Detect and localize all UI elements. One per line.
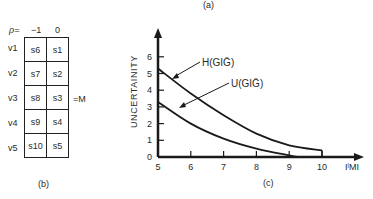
caption-c: (c) xyxy=(263,178,274,188)
y-tick-label: 3 xyxy=(147,102,152,112)
u-leader-arrow-icon xyxy=(179,102,186,108)
x-tick-label: 5 xyxy=(155,162,160,172)
u-annotation-label: U(GIḠ) xyxy=(231,78,263,89)
x-axis-label: IˡMI xyxy=(345,162,359,172)
x-axis-arrow-icon xyxy=(354,153,364,161)
u-leader-line xyxy=(182,83,229,106)
y-tick-label: 4 xyxy=(147,85,152,95)
x-tick-label: 7 xyxy=(221,162,226,172)
uncertainty-chart: 0123456 5678910 H(GIḠ) U(GIḠ) UNCERTAINI… xyxy=(0,0,373,199)
y-tick-label: 6 xyxy=(147,52,152,62)
x-tick-label: 8 xyxy=(254,162,259,172)
h-leader-arrow-icon xyxy=(172,73,179,79)
y-tick-label: 0 xyxy=(147,152,152,162)
x-tick-labels: 5678910 xyxy=(155,162,327,172)
series-u-curve xyxy=(158,102,299,157)
h-annotation-label: H(GIḠ) xyxy=(202,57,234,68)
y-tick-label: 1 xyxy=(147,135,152,145)
chart-axes xyxy=(158,36,358,157)
x-tick-label: 6 xyxy=(188,162,193,172)
y-tick-labels: 0123456 xyxy=(147,52,152,162)
y-axis-arrow-icon xyxy=(154,28,162,38)
h-leader-line xyxy=(174,62,200,77)
annotation-leaders xyxy=(174,62,229,106)
y-tick-label: 5 xyxy=(147,69,152,79)
y-tick-label: 2 xyxy=(147,119,152,129)
y-axis-label: UNCERTAINITY xyxy=(129,55,139,128)
x-tick-label: 10 xyxy=(317,162,327,172)
x-tick-label: 9 xyxy=(287,162,292,172)
